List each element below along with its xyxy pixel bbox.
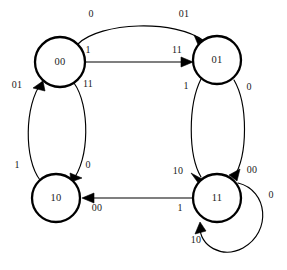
edge-output-t3: 01 xyxy=(12,79,22,90)
edge-output-t5: 10 xyxy=(173,165,183,176)
arrow-head-t3 xyxy=(33,81,45,91)
state-label-11: 11 xyxy=(212,192,223,203)
edge-input-t3: 1 xyxy=(14,159,19,170)
edge-input-t8: 0 xyxy=(268,189,273,200)
edge-output-t2: 11 xyxy=(172,44,182,55)
edge-11-to-10-bottom: 1 00 xyxy=(82,193,193,213)
state-label-10: 10 xyxy=(50,192,61,203)
state-node-11[interactable]: 11 xyxy=(193,174,241,222)
edge-input-t6: 00 xyxy=(247,164,257,175)
edge-path-t6 xyxy=(234,80,245,177)
state-node-01[interactable]: 01 xyxy=(193,36,241,84)
edge-11-to-01-outer: 00 0 xyxy=(229,80,257,181)
edge-path-t1 xyxy=(78,26,204,44)
edge-output-t1: 01 xyxy=(179,8,189,19)
edge-input-t4: 11 xyxy=(83,78,93,89)
arrow-head-t2 xyxy=(181,57,193,67)
edge-output-t7: 00 xyxy=(92,202,102,213)
edge-00-to-01-top: 0 01 xyxy=(78,8,205,47)
edge-path-t5 xyxy=(191,79,201,177)
edge-path-t3 xyxy=(28,82,42,180)
edge-01-to-11-inner: 1 10 xyxy=(173,79,202,184)
edge-input-t1: 0 xyxy=(88,8,93,19)
arrow-head-t8 xyxy=(195,222,206,234)
state-label-00: 00 xyxy=(54,56,65,67)
edge-10-to-00-left: 1 01 xyxy=(12,79,45,180)
edge-00-to-10-left: 11 0 xyxy=(70,78,93,182)
state-node-00[interactable]: 00 xyxy=(35,37,85,87)
edge-path-t4 xyxy=(72,83,86,181)
edge-00-to-01-middle: 1 11 xyxy=(85,44,193,67)
edge-input-t2: 1 xyxy=(85,44,90,55)
edge-output-t4: 0 xyxy=(85,159,90,170)
edge-input-t5: 1 xyxy=(183,80,188,91)
fsm-canvas: 0 01 1 11 1 01 11 0 1 10 xyxy=(0,0,287,270)
edge-input-t7: 1 xyxy=(177,202,182,213)
state-node-10[interactable]: 10 xyxy=(32,174,80,222)
state-label-01: 01 xyxy=(211,54,222,65)
edge-output-t8: 10 xyxy=(191,234,201,245)
state-diagram-container: 0 01 1 11 1 01 11 0 1 10 xyxy=(0,0,287,270)
edge-output-t6: 0 xyxy=(246,81,251,92)
